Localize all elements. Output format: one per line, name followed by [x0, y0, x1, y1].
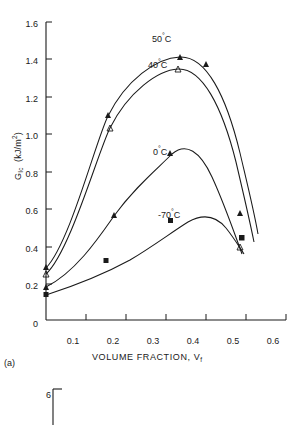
data-markers	[43, 54, 245, 297]
curve-50c	[46, 57, 258, 268]
axes	[46, 22, 286, 320]
next-figure-axis	[53, 389, 62, 425]
plot-canvas	[0, 0, 298, 425]
figure-panel-a: GIc (kJ/m2) 1.6 1.4 1.2 1.0 0.8 0.6 0.4 …	[0, 0, 298, 425]
curve-minus70c	[46, 217, 244, 295]
